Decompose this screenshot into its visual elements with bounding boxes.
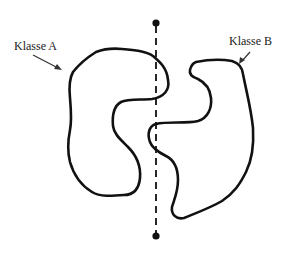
class-a-pointer-arrow-icon [33, 55, 62, 70]
class-b-pointer-arrow-icon [239, 52, 250, 64]
separator-bottom-dot-icon [152, 232, 159, 239]
diagram-canvas: Klasse A Klasse B [0, 0, 286, 253]
linear-separator [152, 19, 159, 239]
class-b-region [149, 60, 254, 218]
class-a-label: Klasse A [14, 39, 57, 53]
separator-top-dot-icon [152, 19, 159, 26]
class-a-region [68, 49, 168, 196]
class-b-label: Klasse B [229, 34, 272, 48]
